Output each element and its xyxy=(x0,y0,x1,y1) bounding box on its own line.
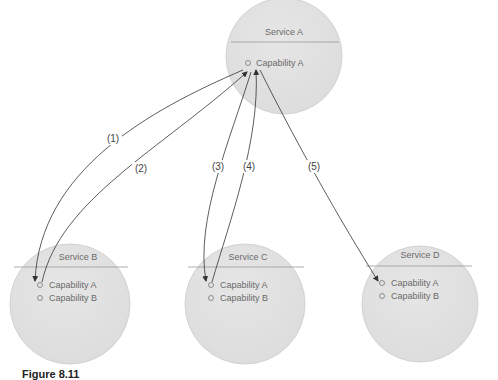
service-a: Service A Capability A xyxy=(226,0,342,114)
service-c-capability-b: Capability B xyxy=(220,293,268,303)
service-d-capability-b: Capability B xyxy=(391,291,439,301)
arrow-2-label: (2) xyxy=(135,163,147,174)
service-a-capability-a: Capability A xyxy=(256,58,304,68)
service-d-capability-a: Capability A xyxy=(391,278,439,288)
arrow-3-label: (3) xyxy=(212,161,224,172)
service-d: Service D Capability A Capability B xyxy=(362,246,478,362)
service-b-capability-a: Capability A xyxy=(49,280,97,290)
service-b-title: Service B xyxy=(59,252,98,262)
service-b-capability-b: Capability B xyxy=(49,293,97,303)
service-c-capability-a: Capability A xyxy=(220,280,268,290)
arrow-4-label: (4) xyxy=(243,161,255,172)
figure-caption: Figure 8.11 xyxy=(22,368,79,380)
service-a-title: Service A xyxy=(265,27,303,37)
arrow-1-label: (1) xyxy=(107,133,119,144)
service-b: Service B Capability A Capability B xyxy=(10,244,130,364)
service-c-title: Service C xyxy=(228,252,268,262)
arrow-5-label: (5) xyxy=(308,161,320,172)
service-c: Service C Capability A Capability B xyxy=(185,244,305,364)
service-d-title: Service D xyxy=(400,250,440,260)
